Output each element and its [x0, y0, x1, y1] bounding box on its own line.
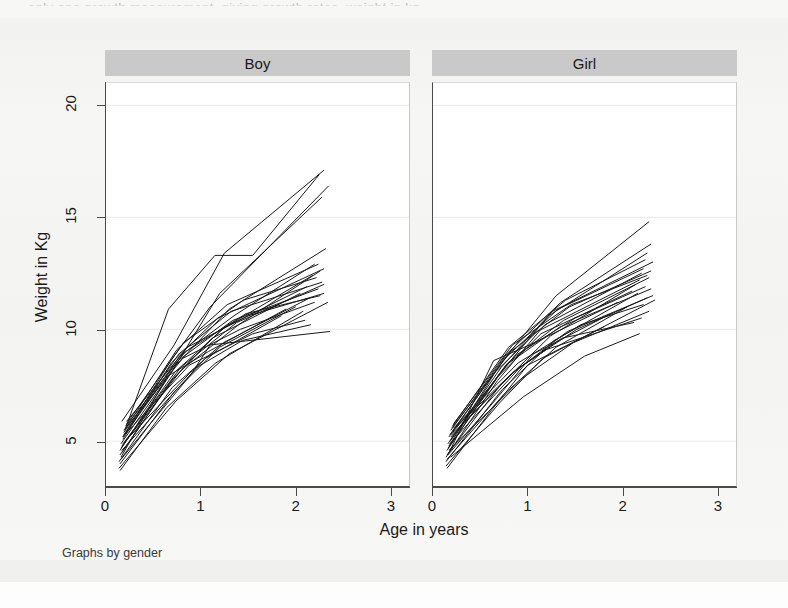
- subject-line-b01: [122, 170, 324, 421]
- x-axis-title: Age in years: [294, 521, 554, 539]
- growth-spaghetti-chart: Boy Girl Weight in Kg 5101520 01230123 A…: [0, 0, 788, 608]
- x-axis-line-boy: [105, 487, 410, 488]
- y-axis-line: [105, 82, 106, 487]
- plot-area-boy: [105, 82, 410, 487]
- x-tick-girl-1: [527, 487, 528, 496]
- x-tick-girl-3: [718, 487, 719, 496]
- x-tick-label-girl-1: 1: [512, 497, 542, 514]
- x-tick-boy-0: [105, 487, 106, 496]
- subject-line-b13: [124, 282, 322, 432]
- graph-note: Graphs by gender: [62, 546, 162, 560]
- y-axis-title: Weight in Kg: [33, 197, 51, 357]
- x-tick-girl-0: [432, 487, 433, 496]
- x-tick-label-boy-2: 2: [281, 497, 311, 514]
- panel-header-girl: Girl: [432, 50, 737, 76]
- y-tick-10: [97, 330, 106, 331]
- y-tick-label-15: 15: [62, 196, 79, 236]
- x-tick-label-girl-2: 2: [608, 497, 638, 514]
- subject-line-b07: [122, 271, 320, 446]
- x-tick-label-boy-0: 0: [90, 497, 120, 514]
- x-tick-girl-2: [623, 487, 624, 496]
- subject-line-b16: [119, 298, 309, 461]
- panel-header-boy: Boy: [105, 50, 410, 76]
- subject-line-g17: [449, 302, 618, 452]
- x-axis-line-girl: [432, 487, 737, 488]
- y-tick-label-20: 20: [62, 83, 79, 123]
- y-tick-15: [97, 217, 106, 218]
- subject-line-g21: [448, 314, 611, 455]
- y-tick-label-5: 5: [62, 421, 79, 461]
- subject-line-g06: [450, 269, 643, 435]
- x-tick-boy-3: [391, 487, 392, 496]
- x-tick-label-girl-3: 3: [703, 497, 733, 514]
- series-canvas-boy: [106, 83, 409, 486]
- y-tick-20: [97, 105, 106, 106]
- panel-header-girl-label: Girl: [573, 55, 596, 72]
- subject-line-g28: [451, 334, 639, 457]
- subject-line-g25: [449, 311, 649, 450]
- plot-area-girl: [432, 82, 737, 487]
- x-tick-boy-1: [200, 487, 201, 496]
- x-tick-label-boy-3: 3: [376, 497, 406, 514]
- subject-line-g18: [452, 298, 647, 435]
- y-tick-label-10: 10: [62, 308, 79, 348]
- panel-header-boy-label: Boy: [245, 55, 271, 72]
- subject-line-b05: [121, 249, 326, 444]
- y-tick-5: [97, 442, 106, 443]
- x-tick-boy-2: [296, 487, 297, 496]
- x-tick-label-boy-1: 1: [185, 497, 215, 514]
- subject-line-g15: [446, 293, 637, 461]
- series-canvas-girl: [433, 83, 736, 486]
- x-tick-label-girl-0: 0: [417, 497, 447, 514]
